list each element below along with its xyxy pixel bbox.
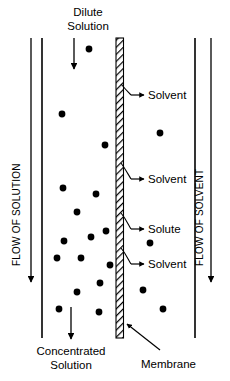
solute-particle <box>107 262 114 269</box>
flow-of-solution-label: FLOW OF SOLUTION <box>11 163 22 266</box>
concentrated-solution-label-line1: Concentrated <box>36 345 105 357</box>
solute-particle <box>54 255 61 262</box>
solvent-low-label: Solvent <box>148 258 187 270</box>
solute-particle <box>60 185 67 192</box>
solute-particle <box>74 209 81 216</box>
solute-particle <box>74 289 81 296</box>
membrane-leader-arrow <box>127 324 160 350</box>
solute-particle <box>160 306 167 313</box>
callout-leaders <box>121 84 160 350</box>
solute-particle <box>157 130 164 137</box>
solute-particle <box>86 46 93 53</box>
solute-particle <box>103 228 110 235</box>
solute-particle <box>93 191 100 198</box>
solute-particle <box>59 111 66 118</box>
solvent-mid-label: Solvent <box>148 173 187 185</box>
right-chamber-particles <box>140 130 167 313</box>
solute-particle <box>96 309 103 316</box>
solute-particle <box>56 306 63 313</box>
concentrated-solution-label-line2: Solution <box>50 359 92 371</box>
membrane-label: Membrane <box>141 358 196 370</box>
solute-particle <box>61 238 68 245</box>
left-chamber-particles <box>54 46 114 316</box>
dilute-solution-label-line1: Dilute <box>73 6 102 18</box>
solute-label: Solute <box>148 223 181 235</box>
solvent-top-label: Solvent <box>148 89 187 101</box>
osmosis-diagram: Dilute Solution Concentrated Solution So… <box>0 0 230 381</box>
solute-particle <box>88 234 95 241</box>
solute-particle <box>140 287 147 294</box>
solute-particle <box>97 280 104 287</box>
membrane-hatch-fill <box>116 38 124 338</box>
flow-of-solvent-label: FLOW OF SOLVENT <box>194 169 205 266</box>
membrane-band <box>116 38 124 338</box>
solute-particle <box>102 142 109 149</box>
dilute-solution-label-line2: Solution <box>67 20 109 32</box>
solute-particle <box>78 255 85 262</box>
diagram-canvas: Dilute Solution Concentrated Solution So… <box>0 0 230 381</box>
solute-particle <box>147 240 154 247</box>
inlet-outlet-arrows <box>71 38 74 339</box>
text-labels: Dilute Solution Concentrated Solution So… <box>11 6 205 371</box>
